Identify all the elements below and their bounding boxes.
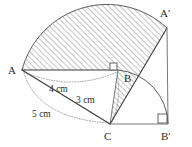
vertex-label-b: B [124, 72, 131, 84]
figure-canvas: A B C A′ B′ 4 cm 3 cm 5 cm [0, 0, 192, 147]
measure-label-ac: 5 cm [32, 109, 51, 119]
geometry-figure: A B C A′ B′ 4 cm 3 cm 5 cm [0, 0, 192, 147]
vertex-label-c: C [104, 130, 111, 142]
dotted-arc-4cm [24, 72, 117, 82]
vertex-label-a: A [8, 64, 16, 76]
measure-label-ab: 4 cm [49, 84, 68, 94]
vertex-label-bprime: B′ [161, 130, 171, 142]
measure-label-bc: 3 cm [76, 95, 95, 105]
segment-aprime-bprime [167, 28, 168, 124]
right-angle-marker-bprime [158, 114, 167, 123]
vertex-label-aprime: A′ [160, 7, 170, 19]
right-angle-marker-b [110, 63, 117, 70]
